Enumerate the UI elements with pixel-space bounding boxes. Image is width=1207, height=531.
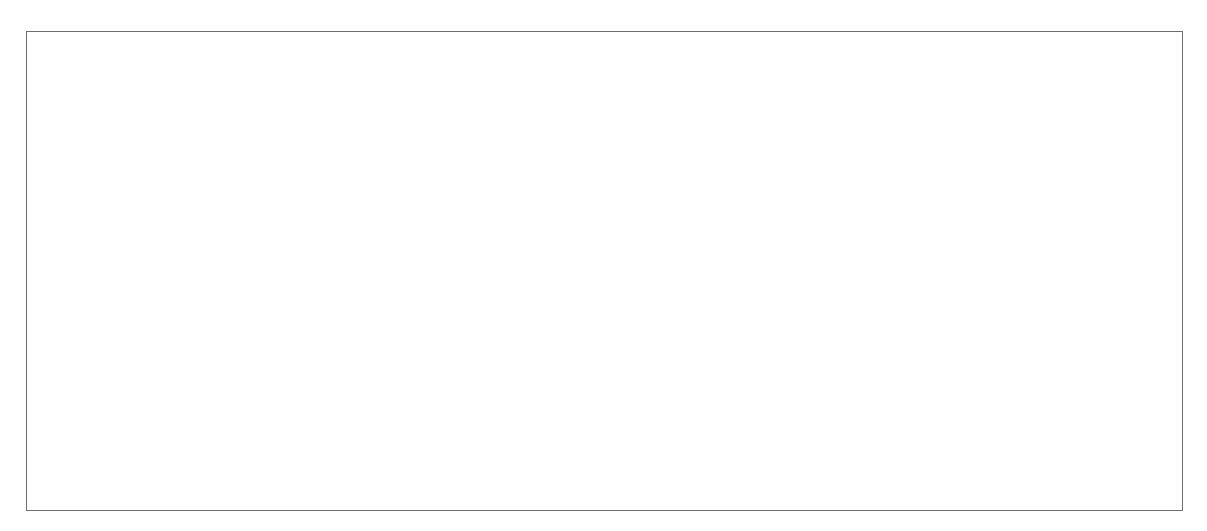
figure-border — [26, 31, 1183, 511]
figure-root: A B C D E F — [0, 0, 1207, 531]
